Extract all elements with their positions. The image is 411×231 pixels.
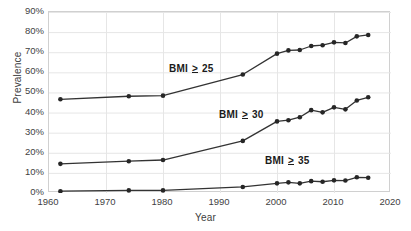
y-tick-label: 10% bbox=[0, 167, 44, 177]
series-label-value: 25 bbox=[199, 63, 214, 74]
data-point-marker bbox=[275, 119, 280, 124]
y-tick-label: 90% bbox=[0, 6, 44, 16]
y-tick-label: 70% bbox=[0, 46, 44, 56]
y-tick-label: 30% bbox=[0, 127, 44, 137]
data-point-marker bbox=[127, 159, 132, 164]
data-point-marker bbox=[366, 95, 371, 100]
data-point-marker bbox=[332, 40, 337, 45]
greater-equal-icon: > bbox=[241, 109, 249, 120]
data-point-marker bbox=[355, 98, 360, 103]
data-point-marker bbox=[332, 105, 337, 110]
x-axis-tick-labels: 1960197019801990200020102020 bbox=[0, 196, 411, 210]
data-point-marker bbox=[275, 51, 280, 56]
series-label-30: BMI > 30 bbox=[219, 109, 263, 120]
data-series bbox=[58, 33, 370, 102]
data-point-marker bbox=[241, 139, 246, 144]
x-axis-title: Year bbox=[0, 212, 411, 223]
series-label-value: 35 bbox=[295, 155, 310, 166]
data-point-marker bbox=[298, 181, 303, 186]
data-point-marker bbox=[309, 108, 314, 113]
data-series bbox=[58, 175, 370, 193]
series-label-prefix: BMI bbox=[219, 109, 241, 120]
y-tick-label: 50% bbox=[0, 86, 44, 96]
data-point-marker bbox=[127, 94, 132, 99]
data-point-marker bbox=[161, 188, 166, 193]
x-tick-label: 1980 bbox=[142, 196, 182, 207]
gridlines bbox=[49, 12, 391, 193]
y-tick-label: 60% bbox=[0, 66, 44, 76]
data-point-marker bbox=[161, 158, 166, 163]
data-point-marker bbox=[309, 179, 314, 184]
data-point-marker bbox=[355, 175, 360, 180]
data-point-marker bbox=[298, 48, 303, 53]
data-point-marker bbox=[286, 180, 291, 185]
data-point-marker bbox=[286, 48, 291, 53]
greater-equal-icon: > bbox=[287, 155, 295, 166]
data-point-marker bbox=[343, 107, 348, 112]
x-tick-label: 2020 bbox=[370, 196, 410, 207]
x-tick-label: 1960 bbox=[28, 196, 68, 207]
x-tick-label: 1990 bbox=[199, 196, 239, 207]
data-point-marker bbox=[58, 189, 63, 193]
y-tick-label: 20% bbox=[0, 147, 44, 157]
greater-equal-icon: > bbox=[191, 63, 199, 74]
series-label-prefix: BMI bbox=[169, 63, 191, 74]
data-point-marker bbox=[343, 41, 348, 46]
data-point-marker bbox=[366, 175, 371, 180]
data-point-marker bbox=[332, 178, 337, 183]
data-point-marker bbox=[320, 43, 325, 48]
data-point-marker bbox=[343, 178, 348, 183]
x-tick-label: 2010 bbox=[313, 196, 353, 207]
series-label-prefix: BMI bbox=[265, 155, 287, 166]
y-tick-label: 40% bbox=[0, 107, 44, 117]
data-point-marker bbox=[320, 179, 325, 184]
data-point-marker bbox=[58, 97, 63, 102]
x-tick-label: 1970 bbox=[85, 196, 125, 207]
data-point-marker bbox=[241, 72, 246, 77]
data-point-marker bbox=[298, 115, 303, 120]
data-point-marker bbox=[127, 188, 132, 193]
data-point-marker bbox=[275, 181, 280, 186]
data-point-marker bbox=[286, 118, 291, 123]
series-label-value: 30 bbox=[249, 109, 264, 120]
data-point-marker bbox=[241, 185, 246, 190]
series-label-25: BMI > 25 bbox=[169, 63, 213, 74]
data-point-marker bbox=[58, 162, 63, 167]
plot-svg bbox=[49, 12, 391, 193]
plot-area bbox=[48, 11, 390, 192]
data-point-marker bbox=[309, 44, 314, 49]
data-series bbox=[58, 95, 370, 166]
data-point-marker bbox=[355, 34, 360, 39]
data-point-marker bbox=[320, 110, 325, 115]
data-point-marker bbox=[366, 33, 371, 38]
data-point-marker bbox=[161, 93, 166, 98]
x-tick-label: 2000 bbox=[256, 196, 296, 207]
series-label-35: BMI > 35 bbox=[265, 155, 309, 166]
y-tick-label: 80% bbox=[0, 26, 44, 36]
prevalence-line-chart: Prevalence 0%10%20%30%40%50%60%70%80%90%… bbox=[0, 0, 411, 231]
